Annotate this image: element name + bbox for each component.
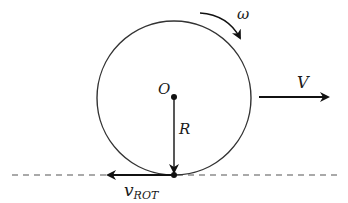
v-rot-subscript: ROT [133,189,160,202]
omega-label: ω [237,5,249,23]
radius-label: R [178,120,190,138]
rolling-wheel-diagram: ω O R V vROT [0,0,348,203]
v-rot-main: v [124,180,134,200]
velocity-label: V [297,73,310,92]
center-label: O [158,80,170,98]
omega-rotation-arrow [200,13,240,38]
v-rot-label: vROT [124,180,160,202]
contact-point [171,172,177,178]
